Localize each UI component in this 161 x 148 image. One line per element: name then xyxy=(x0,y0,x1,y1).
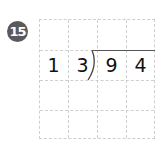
problem-number-badge: 15 xyxy=(7,21,28,42)
division-bracket-bar xyxy=(93,50,155,51)
division-bracket-icon xyxy=(86,50,96,80)
divisor-digit: 1 xyxy=(39,50,68,80)
grid-hline xyxy=(40,110,154,111)
dividend-digit: 4 xyxy=(126,50,155,80)
dividend-digit: 9 xyxy=(97,50,126,80)
grid-hline xyxy=(40,80,154,81)
